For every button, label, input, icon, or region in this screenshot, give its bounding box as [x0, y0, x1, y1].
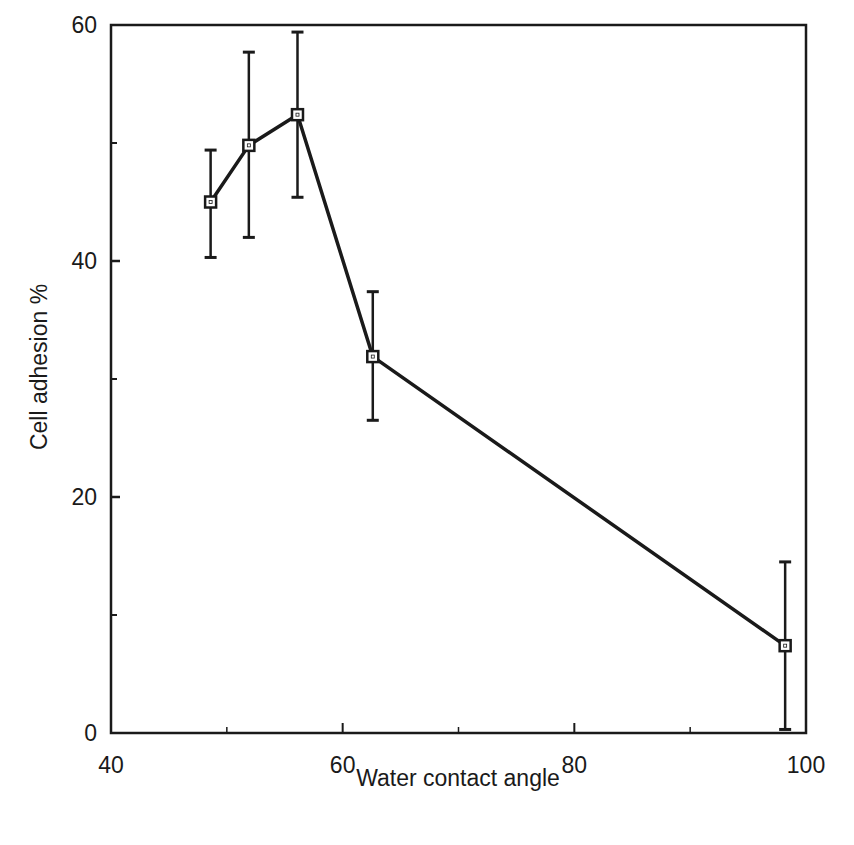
marker-center	[371, 355, 374, 358]
marker-center	[784, 644, 787, 647]
x-tick-label: 80	[562, 752, 588, 778]
chart: 0204060406080100 Water contact angle Cel…	[0, 0, 854, 845]
data-markers	[205, 109, 791, 651]
x-tick-label: 40	[98, 752, 124, 778]
axis-ticks	[111, 143, 690, 733]
x-tick-label: 100	[787, 752, 825, 778]
y-tick-label: 60	[71, 12, 97, 38]
y-tick-label: 20	[71, 484, 97, 510]
plot-border	[111, 25, 806, 733]
plot-frame	[111, 25, 806, 733]
marker-center	[247, 144, 250, 147]
marker-center	[296, 113, 299, 116]
y-tick-label: 0	[84, 720, 97, 746]
x-axis-title: Water contact angle	[356, 765, 560, 791]
y-tick-label: 40	[71, 248, 97, 274]
x-tick-label: 60	[330, 752, 356, 778]
marker-center	[209, 201, 212, 204]
axis-tick-labels: 0204060406080100	[71, 12, 825, 778]
y-axis-title: Cell adhesion %	[26, 284, 52, 450]
error-bars	[205, 32, 792, 729]
